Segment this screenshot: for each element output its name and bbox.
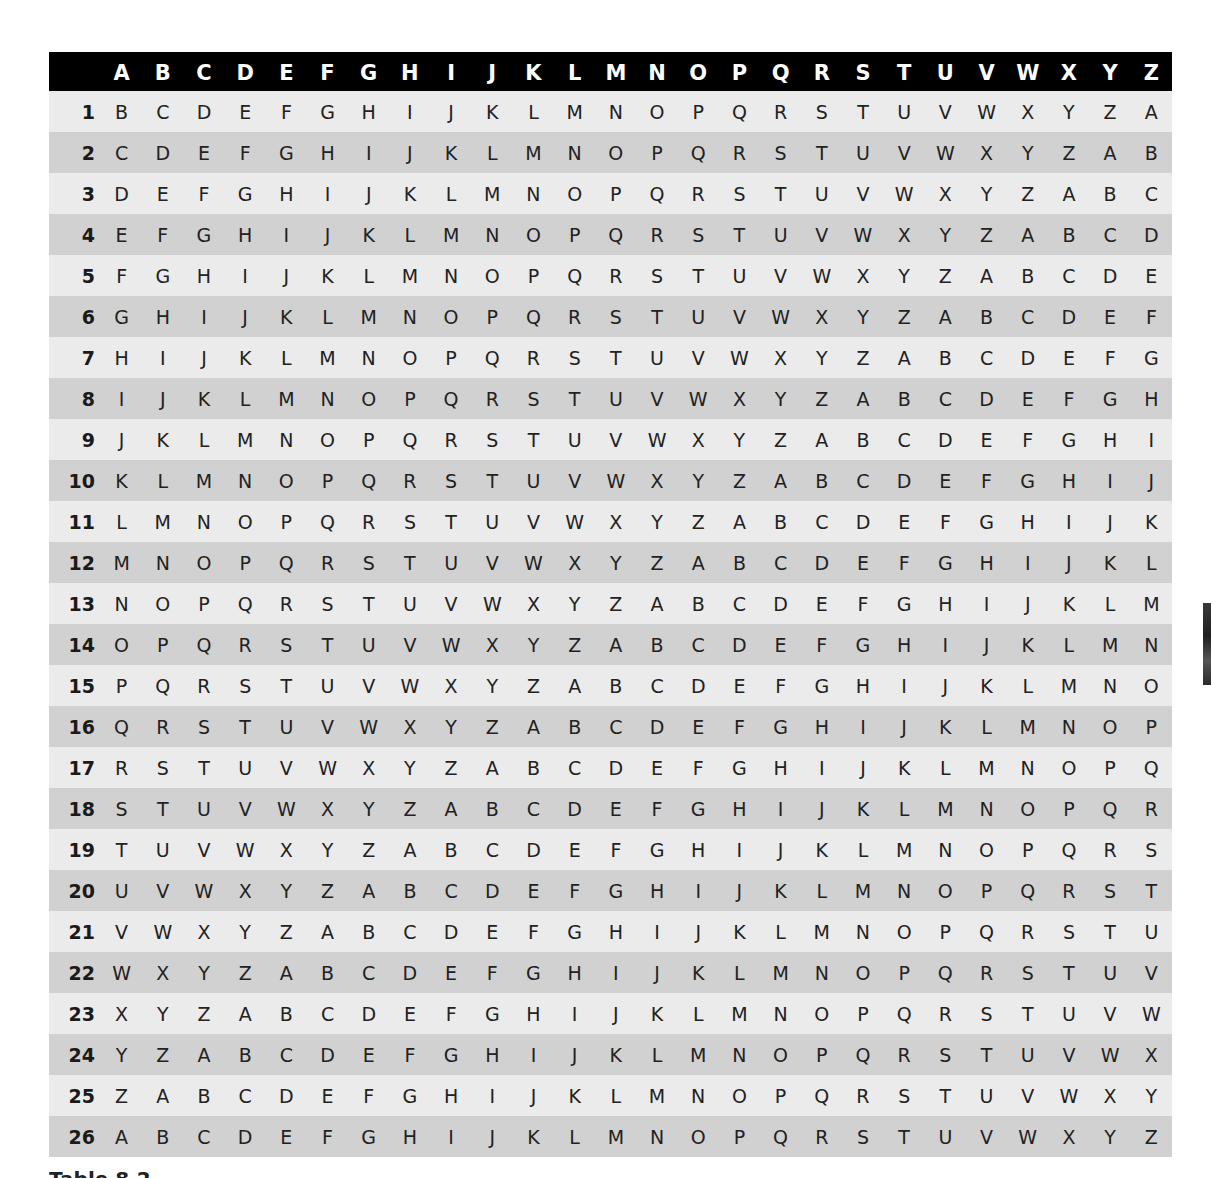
table-cell: X xyxy=(1131,1034,1172,1075)
table-cell: V xyxy=(595,419,636,460)
table-cell: M xyxy=(1007,706,1048,747)
table-cell: W xyxy=(1048,1075,1089,1116)
table-cell: O xyxy=(513,214,554,255)
table-cell: X xyxy=(513,583,554,624)
table-cell: E xyxy=(1090,296,1131,337)
table-cell: T xyxy=(225,706,266,747)
table-cell: V xyxy=(925,91,966,132)
table-cell: X xyxy=(142,952,183,993)
table-cell: N xyxy=(266,419,307,460)
table-cell: R xyxy=(636,214,677,255)
table-cell: T xyxy=(925,1075,966,1116)
table-cell: M xyxy=(554,91,595,132)
table-cell: D xyxy=(348,993,389,1034)
table-cell: M xyxy=(266,378,307,419)
table-cell: E xyxy=(801,583,842,624)
table-cell: A xyxy=(760,460,801,501)
table-cell: Q xyxy=(1007,870,1048,911)
table-cell: R xyxy=(760,91,801,132)
table-header-row: ABCDEFGHIJKLMNOPQRSTUVWXYZ xyxy=(49,52,1172,91)
table-cell: W xyxy=(307,747,348,788)
column-header: X xyxy=(1048,52,1089,91)
table-cell: R xyxy=(101,747,142,788)
table-cell: Q xyxy=(1131,747,1172,788)
table-cell: V xyxy=(1131,952,1172,993)
column-header: Y xyxy=(1090,52,1131,91)
table-cell: F xyxy=(1090,337,1131,378)
table-cell: C xyxy=(1048,255,1089,296)
table-cell: M xyxy=(1048,665,1089,706)
table-cell: I xyxy=(389,91,430,132)
row-number-label: 17 xyxy=(49,747,101,788)
table-cell: Q xyxy=(225,583,266,624)
table-cell: L xyxy=(636,1034,677,1075)
table-cell: G xyxy=(801,665,842,706)
table-cell: U xyxy=(142,829,183,870)
table-cell: Y xyxy=(554,583,595,624)
table-cell: Y xyxy=(1131,1075,1172,1116)
table-cell: D xyxy=(389,952,430,993)
table-cell: U xyxy=(801,173,842,214)
table-cell: N xyxy=(431,255,472,296)
table-cell: A xyxy=(554,665,595,706)
table-cell: O xyxy=(389,337,430,378)
table-cell: F xyxy=(225,132,266,173)
table-cell: H xyxy=(1090,419,1131,460)
table-cell: L xyxy=(1007,665,1048,706)
column-header: P xyxy=(719,52,760,91)
table-cell: S xyxy=(142,747,183,788)
table-row: 10KLMNOPQRSTUVWXYZABCDEFGHIJ xyxy=(49,460,1172,501)
table-cell: E xyxy=(101,214,142,255)
table-cell: Q xyxy=(760,1116,801,1157)
table-cell: N xyxy=(719,1034,760,1075)
table-cell: O xyxy=(1048,747,1089,788)
table-cell: I xyxy=(1007,542,1048,583)
table-cell: E xyxy=(884,501,925,542)
table-cell: H xyxy=(1131,378,1172,419)
table-cell: H xyxy=(348,91,389,132)
table-cell: Z xyxy=(431,747,472,788)
table-cell: C xyxy=(1007,296,1048,337)
table-cell: G xyxy=(101,296,142,337)
table-cell: H xyxy=(554,952,595,993)
table-cell: A xyxy=(1048,173,1089,214)
table-cell: C xyxy=(1090,214,1131,255)
table-cell: Q xyxy=(183,624,224,665)
table-cell: D xyxy=(183,91,224,132)
table-cell: R xyxy=(884,1034,925,1075)
table-cell: X xyxy=(925,173,966,214)
table-cell: R xyxy=(678,173,719,214)
table-cell: D xyxy=(513,829,554,870)
table-cell: K xyxy=(595,1034,636,1075)
row-number-label: 23 xyxy=(49,993,101,1034)
table-cell: S xyxy=(1131,829,1172,870)
table-cell: G xyxy=(925,542,966,583)
table-cell: B xyxy=(1131,132,1172,173)
table-cell: A xyxy=(307,911,348,952)
table-cell: B xyxy=(389,870,430,911)
table-cell: F xyxy=(1007,419,1048,460)
table-cell: K xyxy=(225,337,266,378)
table-cell: M xyxy=(183,460,224,501)
table-cell: S xyxy=(472,419,513,460)
table-cell: Z xyxy=(225,952,266,993)
table-cell: J xyxy=(678,911,719,952)
table-cell: U xyxy=(925,1116,966,1157)
table-cell: M xyxy=(1131,583,1172,624)
table-cell: H xyxy=(595,911,636,952)
table-cell: E xyxy=(1131,255,1172,296)
table-cell: J xyxy=(225,296,266,337)
table-cell: J xyxy=(1090,501,1131,542)
table-cell: X xyxy=(389,706,430,747)
table-cell: H xyxy=(966,542,1007,583)
table-cell: P xyxy=(554,214,595,255)
table-cell: N xyxy=(925,829,966,870)
table-cell: T xyxy=(431,501,472,542)
table-row: 2CDEFGHIJKLMNOPQRSTUVWXYZAB xyxy=(49,132,1172,173)
table-cell: L xyxy=(719,952,760,993)
table-cell: Q xyxy=(142,665,183,706)
table-cell: U xyxy=(636,337,677,378)
table-cell: E xyxy=(595,788,636,829)
table-cell: P xyxy=(101,665,142,706)
table-cell: C xyxy=(348,952,389,993)
